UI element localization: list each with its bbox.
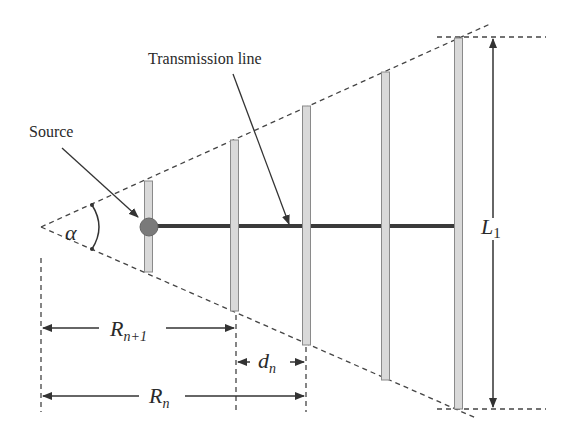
transmission-line-label: Transmission line [148,50,262,67]
source-pointer-arrow [62,148,138,217]
upper-boundary-line [41,24,490,227]
dipole-elements [145,38,463,409]
alpha-angle-arc [92,205,99,249]
r-n1-label: Rn+1 [109,316,147,344]
lpda-diagram: Transmission line Source α L1 Rn+1 dn Rn [0,0,578,443]
l1-label: L1 [480,214,501,241]
dipole-element-3 [303,106,311,345]
rn-label-sub: n [162,396,169,411]
dn-label-sub: n [269,361,276,376]
source-label: Source [29,123,73,140]
alpha-arc-end-top [90,203,94,207]
alpha-label: α [65,220,77,245]
lower-boundary-line [41,227,476,418]
dipole-element-1 [455,38,463,409]
r-n1-label-main: R [109,316,124,341]
alpha-arc-end-bottom [90,247,94,251]
r-n1-label-sub: n+1 [123,329,146,344]
rn-label: Rn [148,383,169,411]
array-boundary-lines [41,24,546,418]
dn-label: dn [258,348,276,376]
dipole-element-2 [382,72,390,380]
source-dot [140,218,158,236]
diagram-svg: Transmission line Source α L1 Rn+1 dn Rn [0,0,578,443]
transmission-line-pointer-arrow [233,74,289,224]
dipole-element-4 [231,140,239,311]
l1-label-sub: 1 [493,225,501,241]
l1-label-main: L [480,214,493,239]
rn-label-main: R [148,383,163,408]
